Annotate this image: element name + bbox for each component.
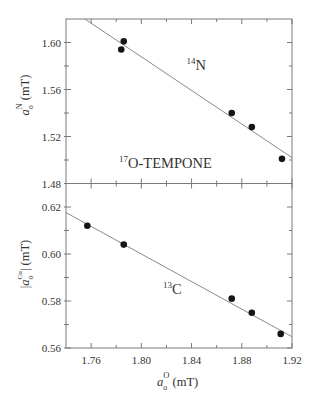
data-point	[277, 331, 284, 338]
annotation-label: 17O-TEMPONE	[119, 154, 212, 171]
y-tick-label: 0.58	[42, 295, 62, 307]
x-tick-label: 1.76	[81, 354, 101, 366]
fit-line	[66, 213, 292, 337]
y-tick-label: 1.56	[42, 84, 62, 96]
y-axis-label-bottom: |aoCα| (mT)	[16, 240, 35, 288]
y-axis-label-top: aoN (mT)	[15, 75, 35, 116]
figure: 1.481.521.561.6014N17O-TEMPONE 0.560.580…	[0, 0, 314, 408]
data-point	[249, 124, 256, 131]
y-tick-label: 0.60	[42, 248, 62, 260]
y-tick-label: 0.56	[42, 342, 62, 354]
x-tick-label: 1.92	[282, 354, 301, 366]
data-point	[249, 309, 256, 316]
data-point	[84, 223, 91, 230]
fit-line	[85, 19, 292, 158]
y-tick-label: 1.48	[42, 178, 62, 190]
data-point	[120, 38, 127, 45]
x-tick-label: 1.88	[232, 354, 252, 366]
data-point	[228, 295, 235, 302]
x-tick-label: 1.80	[132, 354, 152, 366]
x-label-unit: (mT)	[173, 375, 199, 389]
chart: 1.481.521.561.6014N17O-TEMPONE 0.560.580…	[0, 0, 314, 408]
annotation-label: 14N	[187, 56, 207, 73]
y-tick-label: 1.52	[42, 131, 61, 143]
y-tick-label: 1.60	[42, 37, 62, 49]
data-point	[279, 156, 286, 163]
y-label-bottom-sub: o	[26, 275, 35, 279]
x-axis-label: aoO (mT)	[157, 370, 198, 392]
data-point	[228, 110, 235, 117]
y-label-top-unit: (mT)	[18, 75, 32, 101]
y-label-bottom-unit: (mT)	[18, 240, 32, 266]
x-tick-label: 1.84	[182, 354, 202, 366]
plot-frame	[66, 184, 292, 349]
y-tick-label: 0.62	[42, 201, 61, 213]
panel-bottom: 0.560.580.600.6213C1.761.801.841.881.92	[42, 184, 302, 367]
annotation-label: 13C	[163, 280, 182, 297]
x-label-sub: o	[163, 383, 167, 392]
data-point	[118, 46, 125, 53]
y-label-top-sub: o	[26, 105, 35, 109]
data-point	[120, 241, 127, 248]
panel-top: 1.481.521.561.6014N17O-TEMPONE	[42, 19, 292, 190]
